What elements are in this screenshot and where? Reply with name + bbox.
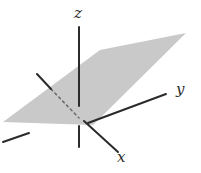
x-axis-positive-segment: [84, 121, 118, 152]
z-axis-label: z: [74, 6, 82, 21]
coordinate-axes-figure: z y x: [0, 0, 201, 173]
shaded-plane: [3, 33, 186, 125]
y-axis-negative-segment: [3, 133, 29, 142]
figure-canvas: [0, 0, 201, 173]
x-axis-negative-segment: [37, 74, 51, 89]
y-axis-label: y: [176, 82, 184, 97]
x-axis-label: x: [117, 150, 125, 165]
